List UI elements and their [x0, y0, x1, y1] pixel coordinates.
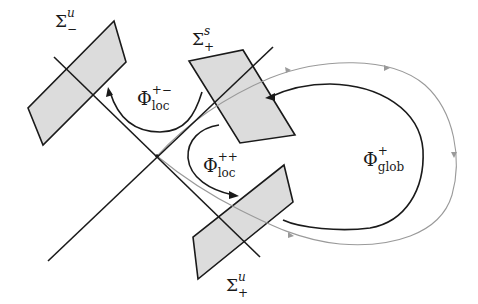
label-sub: + — [238, 287, 248, 299]
label-sup: u — [238, 271, 246, 283]
label-sub: loc — [218, 167, 236, 179]
arrow-head-icon — [229, 191, 239, 199]
label-base: Σ — [226, 275, 238, 295]
equilibrium-point — [155, 154, 159, 158]
section-sigma-u-plus — [193, 165, 293, 279]
label-sup: s — [204, 25, 210, 37]
gray-arrow-icon — [384, 65, 390, 71]
label-base: Σ — [192, 29, 204, 49]
label-base: Σ — [55, 11, 67, 31]
diagram-canvas — [0, 0, 478, 304]
label-sup: + — [378, 145, 388, 157]
label-sub: + — [204, 41, 214, 53]
label-sup: u — [67, 7, 75, 19]
label-sigma-u-minus: Σu− — [55, 13, 67, 30]
label-phi-loc-plus-minus: Φ+−loc — [137, 90, 152, 108]
label-phi-glob-plus: Φ+glob — [363, 151, 378, 169]
section-sigma-u-minus — [28, 21, 126, 145]
label-sub: loc — [152, 100, 170, 112]
phi-glob-plus-curve — [270, 84, 423, 230]
label-base: Φ — [137, 88, 152, 109]
label-sup: ++ — [218, 151, 238, 163]
label-sup: +− — [152, 84, 172, 96]
label-base: Φ — [363, 149, 378, 170]
label-base: Φ — [203, 155, 218, 176]
gray-orbit — [157, 63, 456, 245]
label-phi-loc-plus-plus: Φ++loc — [203, 157, 218, 175]
label-sub: glob — [378, 161, 404, 173]
label-sigma-s-plus: Σs+ — [192, 31, 204, 48]
label-sub: − — [67, 23, 77, 35]
label-sigma-u-plus: Σu+ — [226, 277, 238, 294]
